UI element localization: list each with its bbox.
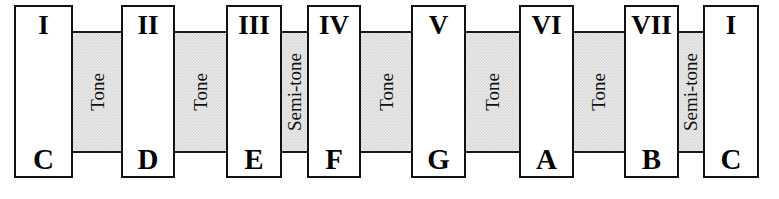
interval-band-semi-tone-3: Semi-tone — [280, 31, 309, 153]
interval-band-tone-4: Tone — [359, 31, 414, 153]
interval-band-label: Semi-tone — [680, 53, 702, 131]
scale-degree-roman-numeral: V — [413, 11, 464, 39]
scale-degree-box-8: IC — [703, 5, 759, 178]
scale-degree-note-name: A — [521, 144, 572, 174]
interval-band-tone-1: Tone — [71, 31, 125, 153]
interval-band-label: Tone — [482, 73, 504, 111]
interval-band-tone-6: Tone — [572, 31, 626, 153]
scale-degree-roman-numeral: VI — [521, 11, 572, 39]
interval-band-label: Tone — [190, 73, 212, 111]
scale-degree-roman-numeral: IV — [309, 11, 359, 39]
scale-degree-note-name: C — [16, 144, 71, 174]
scale-degree-note-name: C — [705, 144, 757, 174]
scale-degree-roman-numeral: I — [705, 11, 757, 39]
scale-degree-note-name: G — [413, 144, 464, 174]
scale-interval-diagram: ToneToneSemi-toneToneToneToneSemi-tone I… — [0, 0, 779, 199]
scale-degree-box-1: IC — [14, 5, 73, 178]
interval-band-label: Tone — [376, 73, 398, 111]
scale-degree-roman-numeral: VII — [626, 11, 677, 39]
scale-degree-roman-numeral: III — [228, 11, 280, 39]
interval-band-semi-tone-7: Semi-tone — [677, 31, 705, 153]
interval-band-label: Tone — [588, 73, 610, 111]
scale-degree-note-name: E — [228, 144, 280, 174]
scale-degree-roman-numeral: II — [123, 11, 173, 39]
scale-degree-box-6: VIA — [519, 5, 574, 178]
scale-degree-box-5: VG — [411, 5, 466, 178]
interval-band-tone-2: Tone — [173, 31, 229, 153]
interval-band-label: Tone — [87, 73, 109, 111]
scale-degree-roman-numeral: I — [16, 11, 71, 39]
scale-degree-note-name: F — [309, 144, 359, 174]
interval-band-label: Semi-tone — [284, 53, 306, 131]
scale-degree-box-7: VIIB — [624, 5, 679, 178]
scale-degree-note-name: B — [626, 144, 677, 174]
scale-degree-box-3: IIIE — [226, 5, 282, 178]
scale-degree-box-4: IVF — [307, 5, 361, 178]
interval-band-tone-5: Tone — [464, 31, 521, 153]
scale-degree-note-name: D — [123, 144, 173, 174]
scale-degree-box-2: IID — [121, 5, 175, 178]
